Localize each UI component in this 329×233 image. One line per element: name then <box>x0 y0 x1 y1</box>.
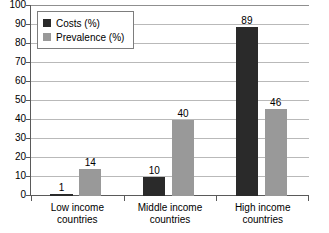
bar-prevalence-1: 14 <box>79 169 101 196</box>
chart-legend: Costs (%)Prevalence (%) <box>37 11 134 49</box>
y-tick-label-30: 30 <box>0 133 26 143</box>
category-label-line: countries <box>31 214 124 226</box>
legend-label: Prevalence (%) <box>56 32 124 43</box>
legend-label: Costs (%) <box>56 18 100 29</box>
bar-prevalence-3: 46 <box>265 109 287 196</box>
y-tick-mark-100 <box>26 5 30 6</box>
category-label-3: High incomecountries <box>216 202 309 226</box>
y-tick-label-80: 80 <box>0 38 26 48</box>
y-tick-label-100: 100 <box>0 0 26 10</box>
y-tick-mark-30 <box>26 138 30 139</box>
y-tick-label-60: 60 <box>0 76 26 86</box>
bar-chart: 1009080706050403020100 11410408946 Low i… <box>0 0 329 233</box>
category-separator-0 <box>31 196 32 201</box>
bar-prevalence-2: 40 <box>172 120 194 196</box>
bar-group-3: 8946 <box>216 5 309 196</box>
bar-value-label: 1 <box>59 182 65 193</box>
legend-swatch-icon <box>43 19 51 27</box>
bar-costs-2: 10 <box>143 177 165 196</box>
bar-costs-3: 89 <box>236 27 258 196</box>
y-tick-mark-90 <box>26 24 30 25</box>
category-label-2: Middle incomecountries <box>124 202 217 226</box>
y-tick-mark-0 <box>26 195 30 196</box>
legend-swatch-icon <box>43 33 51 41</box>
y-tick-label-20: 20 <box>0 152 26 162</box>
category-separator-1 <box>124 196 125 201</box>
bar-value-label: 14 <box>85 157 96 168</box>
category-label-1: Low incomecountries <box>31 202 124 226</box>
category-label-line: countries <box>124 214 217 226</box>
y-tick-mark-50 <box>26 100 30 101</box>
y-tick-mark-80 <box>26 43 30 44</box>
y-tick-label-70: 70 <box>0 57 26 67</box>
category-label-line: Middle income <box>138 202 202 213</box>
y-tick-mark-40 <box>26 119 30 120</box>
bar-value-label: 89 <box>241 15 252 26</box>
legend-item-2: Prevalence (%) <box>43 30 128 44</box>
category-label-line: High income <box>235 202 291 213</box>
x-axis-category-labels: Low incomecountriesMiddle incomecountrie… <box>31 202 309 226</box>
y-tick-label-40: 40 <box>0 114 26 124</box>
category-label-line: countries <box>216 214 309 226</box>
y-tick-mark-60 <box>26 81 30 82</box>
y-tick-mark-70 <box>26 62 30 63</box>
category-label-line: Low income <box>51 202 104 213</box>
category-separator-2 <box>216 196 217 201</box>
y-tick-label-90: 90 <box>0 19 26 29</box>
bar-value-label: 46 <box>270 97 281 108</box>
legend-item-1: Costs (%) <box>43 16 128 30</box>
category-separator-3 <box>308 196 309 201</box>
bar-costs-1: 1 <box>50 194 72 196</box>
bar-value-label: 10 <box>149 165 160 176</box>
bar-group-2: 1040 <box>124 5 217 196</box>
y-tick-mark-20 <box>26 157 30 158</box>
y-tick-label-10: 10 <box>0 171 26 181</box>
bar-value-label: 40 <box>177 108 188 119</box>
y-tick-mark-10 <box>26 176 30 177</box>
y-tick-label-50: 50 <box>0 95 26 105</box>
y-tick-label-0: 0 <box>0 190 26 200</box>
